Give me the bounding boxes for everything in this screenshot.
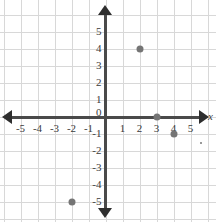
data-point-marker	[136, 46, 143, 53]
data-point-marker	[170, 131, 177, 138]
data-point-marker	[153, 114, 160, 121]
data-points-layer	[0, 0, 216, 222]
data-point-marker	[68, 199, 75, 206]
coordinate-plane-figure: x -5-4-3-2-11234554321-1-2-3-4-50	[0, 0, 216, 222]
scan-artifact-speck	[200, 142, 202, 144]
